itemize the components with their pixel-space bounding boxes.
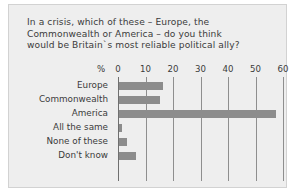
bar-row: All the same	[9, 123, 288, 134]
x-tick-label-20: 20	[168, 64, 179, 74]
bar-row: America	[9, 109, 288, 120]
bar-row: None of these	[9, 137, 288, 148]
bar-row: Commonwealth	[9, 95, 288, 106]
x-tick-label-50: 50	[250, 64, 261, 74]
bar-none-of-these	[119, 138, 127, 146]
chart-title-line-2: Commonwealth or America – do you think	[27, 29, 259, 41]
x-tick-label-10: 10	[140, 64, 151, 74]
bar-row: Don't know	[9, 151, 288, 162]
category-label-none-of-these: None of these	[12, 136, 108, 146]
category-label-commonwealth: Commonwealth	[12, 94, 108, 104]
x-tick-label-60: 60	[278, 64, 289, 74]
bar-europe	[119, 82, 163, 90]
plot-area: % 0 10 20 30 40 50 60 Europe Commonwealt…	[9, 63, 288, 183]
chart-title: In a crisis, which of these – Europe, th…	[27, 17, 259, 52]
bar-commonwealth	[119, 96, 160, 104]
category-label-america: America	[12, 108, 108, 118]
chart-panel: In a crisis, which of these – Europe, th…	[8, 4, 287, 188]
category-label-europe: Europe	[12, 80, 108, 90]
x-axis-unit-label: %	[97, 64, 105, 74]
x-tick-label-30: 30	[195, 64, 206, 74]
x-tick-label-40: 40	[223, 64, 234, 74]
bar-dont-know	[119, 152, 136, 160]
chart-title-line-3: would be Britain`s most reliable politic…	[27, 40, 259, 52]
bar-row: Europe	[9, 81, 288, 92]
bar-all-the-same	[119, 124, 122, 132]
grid-and-bars: Europe Commonwealth America All the same…	[9, 77, 288, 181]
x-axis-labels: % 0 10 20 30 40 50 60	[9, 63, 288, 76]
bar-america	[119, 110, 276, 118]
x-tick-label-0: 0	[115, 64, 120, 74]
category-label-dont-know: Don't know	[12, 150, 108, 160]
chart-title-line-1: In a crisis, which of these – Europe, th…	[27, 17, 259, 29]
category-label-all-the-same: All the same	[12, 122, 108, 132]
